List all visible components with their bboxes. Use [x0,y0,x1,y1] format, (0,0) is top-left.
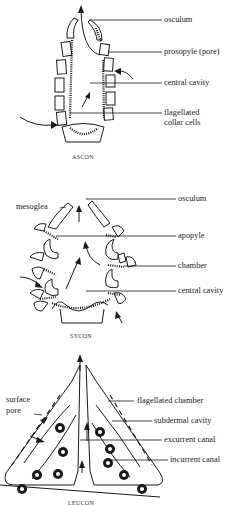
label-chamber: chamber [178,261,207,271]
ascon-flow-arrows [20,5,133,129]
label-flagellated-chamber: flagellated chamber [137,396,203,406]
sycon-left-chambers [30,224,58,311]
caption-sycon: SYCON [70,333,92,339]
label-excurrent-canal: excurrent canal [164,435,215,445]
label-mesoglea: mesoglea [16,202,48,212]
label-incurrent-canal: incurrent canal [170,455,220,465]
caption-ascon: ASCON [72,154,94,160]
ascon-right-wall [88,20,115,120]
leucon-chambers [17,423,147,494]
leucon-panel: surface pore flagellated chamber subderm… [0,345,239,505]
label-subdermal-cavity: subdermal cavity [154,416,211,426]
label-flagellated: flagellated [164,108,199,118]
label-pore: pore [6,406,21,416]
label-surface: surface [6,395,30,405]
sycon-diagram [0,165,239,325]
label-osculum: osculum [164,15,192,25]
sycon-panel: mesoglea osculum apopyle chamber central… [0,165,239,325]
sycon-right-chambers [106,226,136,304]
ascon-panel: osculum prosopyle (pore) central cavity … [0,0,239,165]
ascon-left-wall [55,18,78,125]
label-osculum: osculum [178,194,206,204]
label-apopyle: apopyle [178,231,205,241]
label-collar-cells: collar cells [164,118,201,128]
caption-leucon: LEUCON [68,500,94,505]
label-central-cavity: central cavity [178,286,223,296]
label-prosopyle: prosopyle (pore) [164,47,220,57]
ascon-base [62,124,104,143]
label-central-cavity: central cavity [164,78,209,88]
